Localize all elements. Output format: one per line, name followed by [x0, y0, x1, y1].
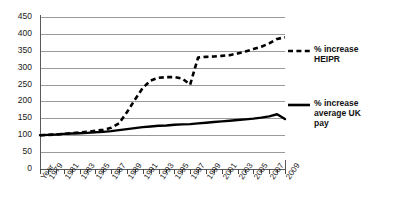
chart-figure: 050100150200250300350400450 Year19791981…	[0, 0, 402, 223]
legend-entry-average-uk-pay: % increase average UK pay	[288, 98, 361, 128]
series-line-heipr	[40, 37, 285, 135]
legend-label-pay-line3: pay	[314, 118, 361, 128]
legend-label-pay-line2: average UK	[314, 108, 361, 118]
legend-label-heipr: % increase HEIPR	[314, 44, 358, 64]
legend-label-heipr-line1: % increase	[314, 44, 358, 54]
legend-label-average-uk-pay: % increase average UK pay	[314, 98, 361, 128]
legend-entry-heipr: % increase HEIPR	[288, 44, 358, 64]
legend-label-heipr-line2: HEIPR	[314, 54, 358, 64]
legend-label-pay-line1: % increase	[314, 98, 361, 108]
solid-line-swatch-icon	[288, 99, 310, 111]
dashed-line-swatch-icon	[288, 45, 310, 57]
